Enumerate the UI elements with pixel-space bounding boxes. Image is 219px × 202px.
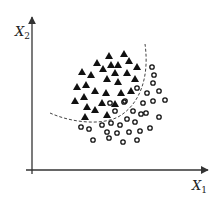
circle-marker <box>152 73 156 77</box>
triangle-marker <box>111 69 119 76</box>
circle-marker <box>163 98 167 102</box>
circle-marker <box>87 127 91 131</box>
triangle-marker <box>127 87 135 94</box>
circle-marker <box>144 111 148 115</box>
triangle-marker <box>103 111 111 118</box>
triangle-marker <box>78 68 86 75</box>
circle-marker <box>151 81 155 85</box>
y-axis-label: X2 <box>14 24 30 41</box>
circle-marker <box>127 130 131 134</box>
triangle-marker <box>107 61 115 68</box>
triangle-marker <box>123 69 131 76</box>
triangle-marker <box>98 99 106 106</box>
triangle-marker <box>99 65 107 72</box>
circle-marker <box>133 120 137 124</box>
data-points <box>71 50 167 144</box>
triangle-marker <box>80 93 88 100</box>
triangle-marker <box>114 61 122 68</box>
circle-marker <box>150 65 154 69</box>
circle-marker <box>113 109 117 113</box>
circle-marker <box>105 130 109 134</box>
circle-marker <box>141 101 145 105</box>
triangle-marker <box>87 71 95 78</box>
triangle-marker <box>133 63 141 70</box>
triangle-marker <box>81 113 89 120</box>
triangle-marker <box>114 78 122 85</box>
circle-marker <box>151 99 155 103</box>
triangle-marker <box>91 87 99 94</box>
circle-marker <box>91 138 95 142</box>
triangle-marker <box>125 57 133 64</box>
triangle-marker <box>73 83 81 90</box>
circle-marker <box>131 109 135 113</box>
circle-marker <box>135 86 139 90</box>
circle-marker <box>138 129 142 133</box>
triangle-marker <box>105 52 113 59</box>
circle-marker <box>121 140 125 144</box>
circle-marker <box>157 115 161 119</box>
triangle-marker <box>131 75 139 82</box>
triangle-marker <box>82 81 90 88</box>
circle-marker <box>118 123 122 127</box>
circle-marker <box>100 123 104 127</box>
x-axis-label: X1 <box>191 178 207 195</box>
triangle-marker <box>93 59 101 66</box>
scatter-diagram: X2 X1 <box>0 0 219 202</box>
circle-marker <box>109 121 113 125</box>
triangle-marker <box>102 89 110 96</box>
circle-marker <box>79 125 83 129</box>
triangle-marker <box>117 89 125 96</box>
triangle-marker <box>83 103 91 110</box>
circle-marker <box>107 136 111 140</box>
triangle-marker <box>120 50 128 57</box>
decision-boundary <box>50 44 146 122</box>
triangle-marker <box>71 97 79 104</box>
circle-marker <box>135 138 139 142</box>
circle-marker <box>157 89 161 93</box>
triangle-marker <box>103 75 111 82</box>
circle-marker <box>139 112 143 116</box>
circle-marker <box>125 117 129 121</box>
circle-marker <box>115 131 119 135</box>
circle-marker <box>145 91 149 95</box>
circle-marker <box>148 126 152 130</box>
circle-marker <box>108 101 112 105</box>
triangle-marker <box>91 106 99 113</box>
